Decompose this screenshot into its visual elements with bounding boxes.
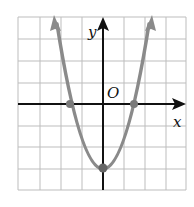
parabola-graph: y O x (0, 0, 194, 207)
root-point-left (66, 100, 74, 108)
x-axis-label: x (173, 113, 182, 131)
origin-label: O (107, 84, 119, 102)
y-axis-label: y (87, 23, 97, 41)
root-point-right (130, 100, 138, 108)
vertex-point (99, 164, 108, 173)
